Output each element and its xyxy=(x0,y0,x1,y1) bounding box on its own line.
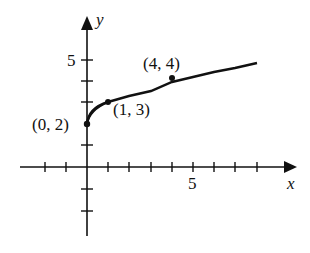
point-label-4-4: (4, 4) xyxy=(143,54,180,73)
x-axis-arrow-icon xyxy=(284,161,297,173)
graph: y x 5 5 (0, 2) (1, 3) (4, 4) xyxy=(0,0,310,253)
x-axis-label: x xyxy=(286,174,295,193)
point-label-1-3: (1, 3) xyxy=(113,100,150,119)
y-axis-arrow-icon xyxy=(81,16,93,30)
point-0-2 xyxy=(84,121,90,127)
y-tick-label-5: 5 xyxy=(67,51,76,70)
point-label-0-2: (0, 2) xyxy=(32,115,69,134)
x-tick-label-5: 5 xyxy=(188,174,197,193)
y-axis-label: y xyxy=(94,10,104,29)
point-1-3 xyxy=(105,99,111,105)
point-4-4 xyxy=(169,75,175,81)
